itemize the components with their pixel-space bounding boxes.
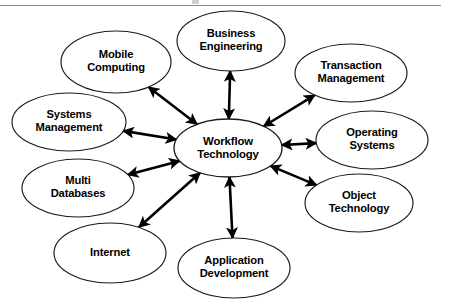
node-label-mobile-computing-line2: Computing: [87, 61, 145, 73]
node-label-systems-management-line1: Systems: [47, 108, 92, 120]
node-label-workflow-technology-line1: Workflow: [203, 135, 253, 147]
workflow-technology-diagram: MobileComputingBusinessEngineeringTransa…: [0, 0, 449, 299]
node-object-technology[interactable]: ObjectTechnology: [305, 174, 413, 232]
connector-internet: [139, 173, 200, 227]
node-label-application-development-line1: Application: [204, 254, 264, 266]
connector-systems-management: [123, 131, 176, 140]
node-operating-systems[interactable]: OperatingSystems: [316, 111, 428, 169]
connector-mobile-computing: [149, 87, 198, 124]
node-label-object-technology-line2: Technology: [329, 202, 390, 214]
nodes-layer: MobileComputingBusinessEngineeringTransa…: [12, 11, 428, 298]
node-label-mobile-computing-line1: Mobile: [99, 48, 134, 60]
connector-transaction-management: [264, 95, 315, 126]
node-label-workflow-technology-line2: Technology: [197, 148, 259, 160]
node-label-multi-databases-line1: Multi: [65, 174, 90, 186]
node-label-business-engineering-line2: Engineering: [200, 40, 263, 52]
node-label-object-technology-line1: Object: [342, 189, 376, 201]
node-systems-management[interactable]: SystemsManagement: [12, 93, 126, 151]
node-label-internet: Internet: [90, 246, 130, 258]
node-internet[interactable]: Internet: [54, 223, 166, 283]
connector-operating-systems: [282, 143, 317, 145]
node-label-operating-systems-line1: Operating: [346, 126, 398, 138]
node-label-application-development-line2: Development: [200, 267, 269, 279]
node-workflow-technology[interactable]: WorkflowTechnology: [174, 119, 282, 177]
node-label-business-engineering-line1: Business: [207, 27, 256, 39]
node-transaction-management[interactable]: TransactionManagement: [295, 44, 407, 102]
connector-object-technology: [271, 166, 317, 185]
node-label-multi-databases-line2: Databases: [51, 187, 106, 199]
connector-business-engineering: [229, 71, 230, 119]
connector-multi-databases: [128, 161, 180, 175]
node-mobile-computing[interactable]: MobileComputing: [61, 31, 171, 93]
node-label-operating-systems-line2: Systems: [350, 139, 395, 151]
node-label-transaction-management-line2: Management: [318, 72, 385, 84]
connector-application-development: [229, 177, 232, 238]
node-business-engineering[interactable]: BusinessEngineering: [177, 11, 285, 71]
node-application-development[interactable]: ApplicationDevelopment: [178, 238, 290, 298]
figure-root: MobileComputingBusinessEngineeringTransa…: [0, 0, 449, 299]
node-multi-databases[interactable]: MultiDatabases: [22, 159, 134, 217]
node-label-systems-management-line2: Management: [36, 121, 103, 133]
node-label-transaction-management-line1: Transaction: [320, 59, 381, 71]
